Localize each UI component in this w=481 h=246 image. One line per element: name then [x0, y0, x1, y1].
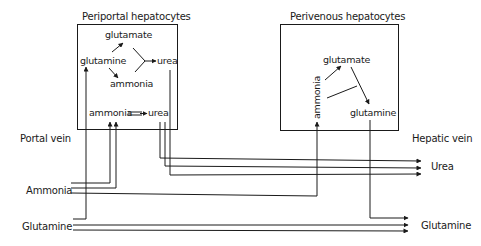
arrow-glutamate-to-glutamine [351, 67, 369, 104]
ammonia-inflow-line-1 [71, 122, 110, 183]
periportal-urea-top: urea [157, 56, 178, 66]
urea-outflow-label: Urea [431, 162, 454, 172]
ammonia-inflow-line-2 [71, 122, 116, 188]
diagram-canvas [0, 0, 481, 246]
hepatic-vein-label: Hepatic vein [412, 134, 472, 144]
glutamine-inflow-label: Glutamine [22, 222, 72, 232]
glutamine-outflow-line [370, 120, 408, 218]
urea-outflow-line-1 [160, 122, 421, 161]
portal-vein-label: Portal vein [20, 134, 71, 144]
urea-merge-lines [133, 48, 145, 72]
periportal-title: Periportal hepatocytes [82, 12, 191, 22]
perivenous-ammonia: ammonia [312, 76, 322, 119]
perivenous-title: Perivenous hepatocytes [290, 12, 405, 22]
arrow-glutamine-to-ammonia [109, 68, 118, 78]
arrow-glutamine-to-glutamate [112, 43, 123, 52]
urea-outflow-line-2 [165, 122, 421, 168]
glutamine-inflow-line [73, 67, 86, 219]
periportal-glutamate: glutamate [105, 30, 152, 40]
periportal-ammonia-bottom: ammonia [89, 108, 132, 118]
periportal-ammonia-top: ammonia [110, 79, 153, 89]
glutamine-outflow-label: Glutamine [421, 221, 471, 231]
periportal-glutamine: glutamine [80, 56, 126, 66]
ammonia-inflow-label: Ammonia [26, 186, 72, 196]
glutamine-passthrough-line-2 [73, 230, 408, 231]
perivenous-glutamate: glutamate [323, 55, 370, 65]
periportal-urea-bottom: urea [148, 108, 169, 118]
perivenous-glutamine: glutamine [350, 108, 396, 118]
line-ammonia-merge [327, 86, 357, 98]
arrow-ammonia-to-glutamate [325, 66, 341, 80]
